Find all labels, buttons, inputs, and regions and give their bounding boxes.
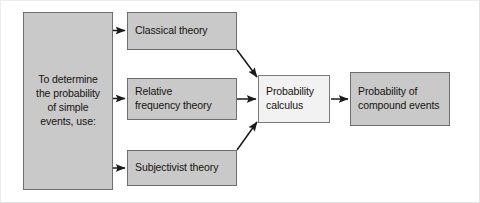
node-probability-of-compound-events-label: Probability of compound events <box>358 85 439 113</box>
node-source[interactable]: To determine the probability of simple e… <box>23 12 113 190</box>
node-probability-of-compound-events[interactable]: Probability of compound events <box>350 72 450 126</box>
node-relative-frequency-theory[interactable]: Relative frequency theory <box>127 78 237 120</box>
node-classical-theory[interactable]: Classical theory <box>127 12 237 50</box>
arrow-classical-to-calculus <box>237 50 257 77</box>
node-probability-calculus-label: Probability calculus <box>266 85 314 113</box>
diagram-canvas: To determine the probability of simple e… <box>0 0 480 203</box>
node-source-label: To determine the probability of simple e… <box>36 73 100 128</box>
node-relative-frequency-theory-label: Relative frequency theory <box>135 85 212 113</box>
arrow-subjectivist-to-calculus <box>237 122 257 150</box>
node-subjectivist-theory[interactable]: Subjectivist theory <box>127 150 237 186</box>
node-probability-calculus[interactable]: Probability calculus <box>258 75 330 123</box>
node-subjectivist-theory-label: Subjectivist theory <box>135 161 218 175</box>
node-classical-theory-label: Classical theory <box>135 24 208 38</box>
